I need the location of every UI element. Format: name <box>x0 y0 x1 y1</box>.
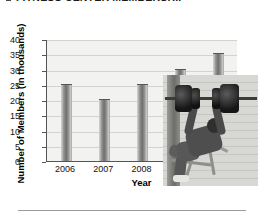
y-tick-label: 25 <box>2 82 20 91</box>
gridline <box>47 71 237 72</box>
y-tick-label: 15 <box>2 112 20 121</box>
y-tick-label: 5 <box>2 143 20 152</box>
y-tick-label: 30 <box>2 67 20 76</box>
x-tick-label: 2007 <box>83 164 123 174</box>
y-tick-label: 10 <box>2 128 20 137</box>
gridline <box>47 40 237 41</box>
photo-barbell-plate <box>175 85 192 112</box>
photo-barbell-plate <box>191 88 200 109</box>
y-tick-label: 20 <box>2 97 20 106</box>
y-tick-label: 40 <box>2 36 20 45</box>
bar-chart-figure: Number of Members (in thousands) 0510152… <box>0 10 261 202</box>
y-tick-label: 0 <box>2 158 20 167</box>
page-title: FITNESS CENTER MEMBERSHIP <box>16 0 186 3</box>
x-tick-label: 2006 <box>45 164 85 174</box>
footer-divider <box>18 210 246 211</box>
weightlifter-photo <box>163 75 258 186</box>
photo-barbell-plate <box>220 84 239 113</box>
bar <box>137 84 148 161</box>
gridline <box>47 55 237 56</box>
x-tick-label: 2008 <box>122 164 162 174</box>
chart-title-bar: FITNESS CENTER MEMBERSHIP <box>0 0 261 5</box>
square-bullet-icon <box>6 0 11 1</box>
bar <box>61 84 72 161</box>
photo-lifter-shoe <box>173 175 189 182</box>
y-tick-mark <box>42 162 46 163</box>
y-tick-label: 35 <box>2 51 20 60</box>
bar <box>99 99 110 161</box>
